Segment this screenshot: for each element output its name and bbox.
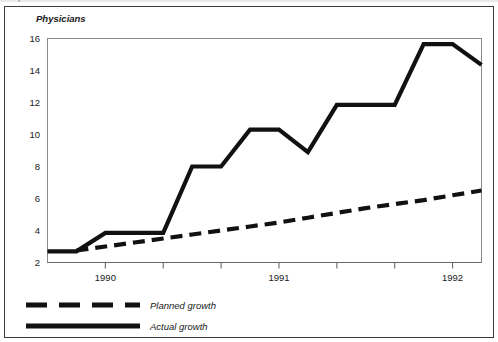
y-tick-labels: 246810121416 — [29, 33, 40, 268]
y-tick-label: 6 — [35, 193, 40, 204]
legend-label-actual-growth: Actual growth — [149, 321, 208, 332]
chart-legend: Planned growth Actual growth — [26, 300, 216, 332]
y-tick-label: 12 — [29, 97, 40, 108]
line-chart: Physicians 246810121416 199019911992 Pla… — [0, 0, 498, 342]
plot-area-border — [48, 39, 482, 263]
y-tick-label: 14 — [29, 65, 40, 76]
x-tick-marks — [105, 263, 452, 269]
x-tick-label: 1990 — [95, 272, 116, 283]
x-tick-label: 1991 — [268, 272, 289, 283]
y-tick-label: 2 — [35, 257, 40, 268]
chart-figure: Physicians 246810121416 199019911992 Pla… — [0, 0, 498, 342]
y-axis-title: Physicians — [36, 13, 86, 24]
y-tick-label: 8 — [35, 161, 40, 172]
y-tick-label: 16 — [29, 33, 40, 44]
x-tick-label: 1992 — [442, 272, 463, 283]
y-tick-label: 4 — [35, 225, 40, 236]
legend-label-planned-growth: Planned growth — [150, 300, 216, 311]
x-tick-labels: 199019911992 — [95, 272, 463, 283]
y-tick-label: 10 — [29, 129, 40, 140]
